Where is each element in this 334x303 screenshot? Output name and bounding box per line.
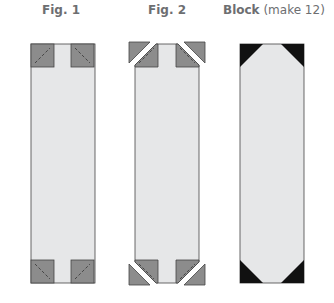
diagram-canvas — [0, 0, 334, 303]
fig1-strip — [31, 44, 95, 283]
block-strip — [240, 44, 304, 283]
fig2-strip — [129, 42, 205, 285]
